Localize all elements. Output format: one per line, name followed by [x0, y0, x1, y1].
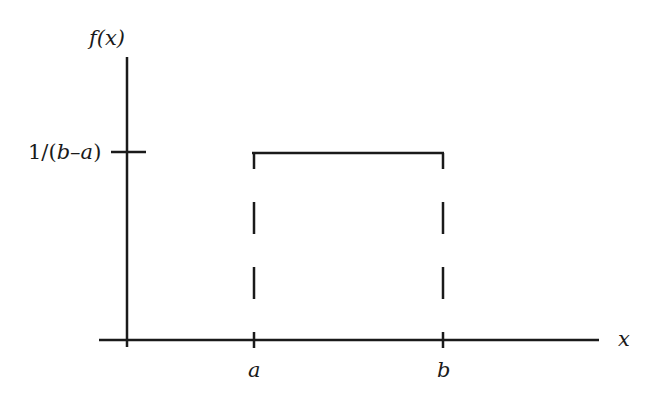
y-tick-label: 1/(b–a) [28, 140, 101, 164]
x-tick-label-b: b [437, 358, 450, 382]
y-axis-label: f(x) [87, 26, 125, 50]
x-axis-label: x [618, 327, 630, 351]
x-tick-label-a: a [248, 358, 261, 382]
uniform-pdf-diagram: f(x) x 1/(b–a) a b [0, 0, 655, 397]
